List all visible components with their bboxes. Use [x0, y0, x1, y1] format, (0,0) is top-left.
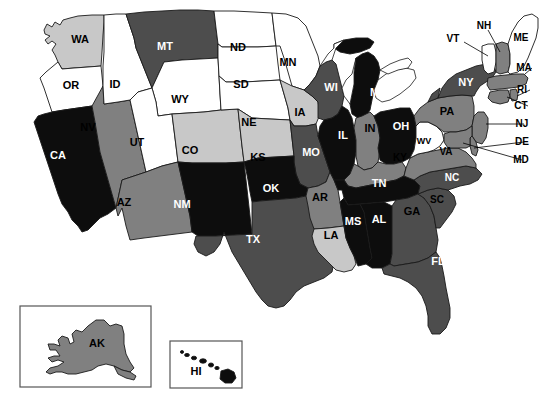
state-CT[interactable] — [488, 90, 510, 104]
hawaii-inset[interactable]: HI — [170, 341, 242, 388]
map-svg: WA OR CA NV ID MT WY UT AZ CO NM ND SD N… — [0, 0, 539, 412]
us-choropleth-map: WA OR CA NV ID MT WY UT AZ CO NM ND SD N… — [0, 0, 539, 412]
state-VT[interactable] — [482, 44, 496, 74]
alaska-inset[interactable]: AK — [20, 306, 151, 387]
state-CO[interactable] — [172, 109, 244, 163]
state-ND[interactable] — [214, 11, 276, 47]
state-SD[interactable] — [218, 44, 280, 82]
state-OH[interactable] — [374, 108, 416, 164]
state-NH[interactable] — [496, 42, 510, 74]
state-WY[interactable] — [152, 58, 221, 116]
